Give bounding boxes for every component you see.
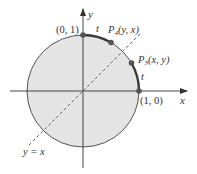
unit-circle-diagram: y x (0, 1) P4(y, x) P3(x, y) (1, 0) t t … <box>0 0 197 174</box>
label-P3-coords: (x, y) <box>148 54 170 66</box>
label-P3: P3(x, y) <box>137 54 170 67</box>
diagram-canvas: y x (0, 1) P4(y, x) P3(x, y) (1, 0) t t … <box>0 0 197 174</box>
arc-label-top: t <box>96 23 100 34</box>
point-0-1-dot <box>80 32 86 38</box>
label-1-0: (1, 0) <box>140 95 163 107</box>
label-P4-coords: (y, x) <box>118 24 139 36</box>
label-y-equals-x: y = x <box>22 146 45 157</box>
arc-label-right: t <box>141 71 145 82</box>
x-axis-label: x <box>179 94 185 106</box>
point-P4-dot <box>108 40 114 46</box>
y-axis-label: y <box>87 8 93 20</box>
label-P4: P4(y, x) <box>107 24 139 37</box>
point-1-0-dot <box>136 88 142 94</box>
point-P3-dot <box>129 60 135 66</box>
label-0-1: (0, 1) <box>56 24 79 36</box>
